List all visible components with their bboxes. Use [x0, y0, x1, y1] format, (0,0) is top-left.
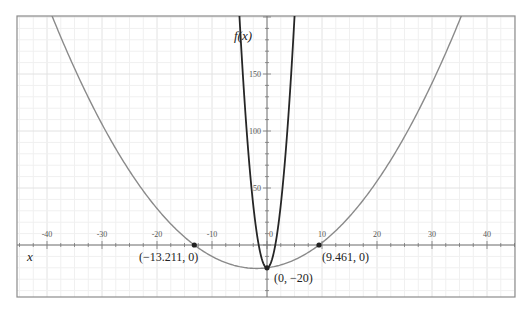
- y-tick-label: 150: [249, 70, 261, 79]
- root-left-point: [192, 242, 197, 247]
- x-tick-label: 20: [373, 230, 381, 239]
- y-axis-title: f(x): [234, 28, 252, 43]
- x-tick-label: 10: [318, 230, 326, 239]
- y-tick-label: 100: [249, 127, 261, 136]
- y-tick-label: 50: [253, 184, 261, 193]
- x-tick-label: 30: [428, 230, 436, 239]
- root-left-label: (−13.211, 0): [139, 250, 198, 264]
- grid-lines: [17, 16, 515, 297]
- root-right-label: (9.461, 0): [322, 250, 369, 264]
- x-tick-label: -30: [97, 230, 108, 239]
- plot-frame: [17, 16, 515, 297]
- function-plot: -40-30-20-10010203040 50100150 (−13.211,…: [0, 0, 531, 312]
- vertex-point: [264, 265, 269, 270]
- x-tick-label: 40: [483, 230, 491, 239]
- x-tick-label: -20: [152, 230, 163, 239]
- x-tick-label: 0: [269, 230, 273, 239]
- x-tick-label: -10: [207, 230, 218, 239]
- vertex-label: (0, −20): [274, 271, 313, 285]
- root-right-point: [316, 242, 321, 247]
- x-tick-labels: -40-30-20-10010203040: [42, 230, 491, 239]
- x-axis-title: x: [26, 249, 33, 264]
- x-tick-label: -40: [42, 230, 53, 239]
